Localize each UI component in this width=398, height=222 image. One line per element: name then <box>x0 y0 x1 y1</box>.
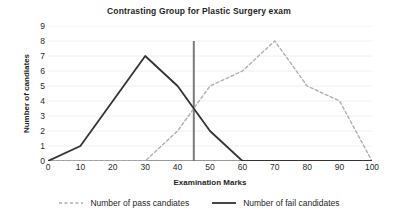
x-tick-label: 80 <box>302 163 311 172</box>
y-tick-label: 3 <box>40 112 45 121</box>
legend-item-1[interactable]: Number of fail candidates <box>211 198 339 208</box>
legend-item-0[interactable]: Number of pass candiates <box>58 198 189 208</box>
x-tick-label: 40 <box>173 163 182 172</box>
plot-canvas <box>48 26 372 161</box>
chart-title: Contrasting Group for Plastic Surgery ex… <box>0 6 398 16</box>
x-tick-label: 20 <box>108 163 117 172</box>
legend-label: Number of fail candidates <box>243 198 339 208</box>
chart-legend: Number of pass candiatesNumber of fail c… <box>0 198 398 208</box>
plot-area: Number of candiates 0123456789 010203040… <box>48 26 372 161</box>
solid-line-icon <box>211 199 237 207</box>
y-tick-label: 5 <box>40 82 45 91</box>
series-line-1 <box>48 56 372 161</box>
y-tick-label: 9 <box>40 22 45 31</box>
x-tick-label: 30 <box>140 163 149 172</box>
x-tick-label: 10 <box>76 163 85 172</box>
legend-label: Number of pass candiates <box>90 198 189 208</box>
y-tick-label: 8 <box>40 37 45 46</box>
x-axis-tick-labels: 0102030405060708090100 <box>48 163 372 177</box>
x-tick-label: 100 <box>365 163 379 172</box>
x-axis-title: Examination Marks <box>48 178 372 187</box>
y-axis-tick-labels: 0123456789 <box>31 26 45 161</box>
y-tick-label: 2 <box>40 127 45 136</box>
x-tick-label: 60 <box>238 163 247 172</box>
x-tick-label: 50 <box>205 163 214 172</box>
y-tick-label: 4 <box>40 97 45 106</box>
dashed-line-icon <box>58 199 84 207</box>
x-tick-label: 0 <box>46 163 51 172</box>
y-tick-label: 6 <box>40 67 45 76</box>
y-tick-label: 1 <box>40 142 45 151</box>
chart-container: Contrasting Group for Plastic Surgery ex… <box>0 0 398 222</box>
y-tick-label: 0 <box>40 157 45 166</box>
y-tick-label: 7 <box>40 52 45 61</box>
gridlines <box>48 26 372 146</box>
x-tick-label: 70 <box>270 163 279 172</box>
x-tick-label: 90 <box>335 163 344 172</box>
